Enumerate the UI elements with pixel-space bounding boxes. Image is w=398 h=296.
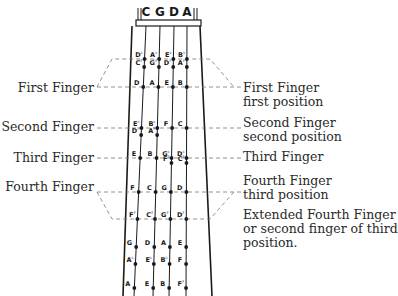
note-label: C <box>147 184 152 192</box>
note-label: E <box>132 150 136 158</box>
note-label: A <box>149 79 154 87</box>
right-label-first-line2: first position <box>243 95 323 109</box>
finger-dot <box>140 126 144 130</box>
finger-dot <box>134 245 138 249</box>
sharp-sign: ♯ <box>167 154 169 159</box>
right-label-extended-fourth: Extended Fourth Finger or second finger … <box>243 208 398 250</box>
note-label: B <box>178 79 183 87</box>
right-label-fourth-line2: third position <box>243 188 332 202</box>
finger-dot <box>141 85 145 89</box>
finger-dot <box>169 190 173 194</box>
right-label-fourth-finger: Fourth Finger third position <box>243 174 332 202</box>
note-label: E <box>178 239 182 247</box>
finger-dot <box>157 85 161 89</box>
sharp-sign: ♯ <box>169 58 171 63</box>
right-label-first-finger: First Finger first position <box>243 81 323 109</box>
finger-dot <box>184 286 188 290</box>
left-label-second-finger: Second Finger <box>1 120 94 134</box>
finger-dot <box>168 262 172 266</box>
note-label: F <box>164 120 168 128</box>
right-label-second-finger: Second Finger second position <box>243 116 342 144</box>
right-label-ext-line3: position. <box>243 236 398 250</box>
finger-dot <box>167 286 171 290</box>
sharp-sign: ♯ <box>151 210 153 215</box>
sharp-sign: ♯ <box>133 210 135 215</box>
note-label: B <box>148 150 153 158</box>
finger-dot <box>143 57 147 61</box>
finger-dot <box>136 217 140 221</box>
flat-sign: ♭ <box>137 119 139 124</box>
finger-dot <box>132 286 136 290</box>
flat-sign: ♭ <box>183 50 185 55</box>
note-label: G <box>127 239 132 247</box>
flat-sign: ♭ <box>155 50 157 55</box>
left-label-fourth-finger: Fourth Finger <box>5 180 94 194</box>
note-label: E <box>164 79 168 87</box>
finger-dot <box>185 161 189 165</box>
finger-dot <box>154 190 158 194</box>
finger-dot <box>153 217 157 221</box>
finger-dot <box>184 262 188 266</box>
flat-sign: ♭ <box>131 255 133 260</box>
finger-dot <box>151 286 155 290</box>
flat-sign: ♭ <box>141 50 143 55</box>
string-name-c: C <box>142 5 151 19</box>
note-label: D <box>177 184 183 192</box>
finger-dot <box>185 85 189 89</box>
note-label: B <box>160 280 165 288</box>
fingerboard-right-edge <box>200 26 212 296</box>
finger-dot <box>170 161 174 165</box>
finger-dot <box>157 65 161 69</box>
right-label-second-line2: second position <box>243 130 342 144</box>
finger-dot <box>134 262 138 266</box>
finger-dot <box>171 57 175 61</box>
finger-dot <box>168 245 172 249</box>
sharp-sign: ♯ <box>140 58 142 63</box>
finger-dot <box>185 57 189 61</box>
left-label-third-finger: Third Finger <box>14 151 94 165</box>
finger-dot <box>152 245 156 249</box>
right-label-third-finger: Third Finger <box>243 150 323 164</box>
finger-dot <box>170 156 174 160</box>
finger-dot <box>139 133 143 137</box>
string-name-g: G <box>155 5 165 19</box>
finger-dot <box>169 217 173 221</box>
finger-dot <box>171 85 175 89</box>
sharp-sign: ♯ <box>137 126 139 131</box>
finger-dot <box>170 126 174 130</box>
right-label-ext-line2: or second finger of third <box>243 222 398 236</box>
sharp-sign: ♯ <box>153 126 155 131</box>
nut <box>136 20 201 26</box>
finger-dot <box>185 156 189 160</box>
note-label: D <box>145 239 151 247</box>
note-label: F <box>178 256 182 264</box>
finger-dot <box>184 245 188 249</box>
finger-dot <box>155 126 159 130</box>
string-name-a: A <box>182 5 192 19</box>
finger-dot <box>184 190 188 194</box>
right-label-ext-line1: Extended Fourth Finger <box>243 208 398 222</box>
finger-dot <box>184 217 188 221</box>
note-label: G <box>162 184 167 192</box>
flat-sign: ♭ <box>166 255 168 260</box>
left-label-first-finger: First Finger <box>18 81 94 95</box>
right-label-first-line1: First Finger <box>243 81 323 95</box>
sharp-sign: ♯ <box>182 154 184 159</box>
finger-dot <box>138 156 142 160</box>
note-label: E <box>145 280 149 288</box>
note-label: A <box>161 239 166 247</box>
finger-dot <box>155 133 159 137</box>
flat-sign: ♭ <box>169 50 171 55</box>
finger-dot <box>171 65 175 69</box>
finger-dot <box>152 262 156 266</box>
sharp-sign: ♯ <box>166 210 168 215</box>
sharp-sign: ♯ <box>182 210 184 215</box>
string-name-d: D <box>169 5 179 19</box>
sharp-sign: ♯ <box>182 279 184 284</box>
right-label-fourth-line1: Fourth Finger <box>243 174 332 188</box>
flat-sign: ♭ <box>153 119 155 124</box>
note-label: F <box>130 184 134 192</box>
finger-dot <box>142 65 146 69</box>
note-label: C <box>178 120 183 128</box>
